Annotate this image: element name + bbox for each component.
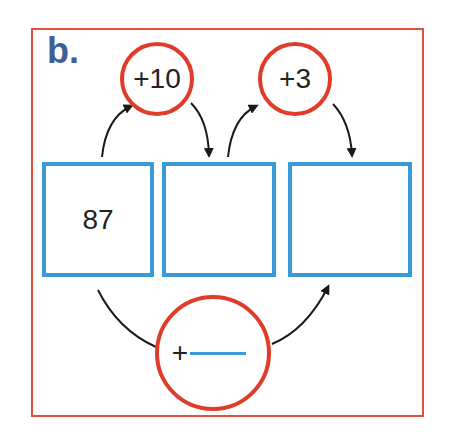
operator-circle-bottom: +: [155, 295, 271, 411]
number-box-2[interactable]: [162, 162, 276, 277]
number-box-3[interactable]: [288, 162, 412, 277]
operator-circle-plus3: +3: [258, 42, 332, 116]
arrow-plus3-to-box3: [333, 104, 352, 155]
arrow-box2-to-plus3: [228, 106, 256, 157]
arrow-plus10-to-box2: [191, 103, 209, 155]
operator-prefix: +: [172, 337, 188, 369]
arrow-box1-to-bottom-circle: [98, 290, 156, 347]
arrow-box1-to-plus10: [102, 106, 131, 157]
box-value: 87: [82, 204, 113, 236]
operator-circle-plus10: +10: [120, 42, 194, 116]
number-box-1: 87: [42, 162, 154, 277]
answer-blank[interactable]: [190, 352, 246, 355]
operator-text: +10: [133, 63, 181, 95]
arrow-bottom-circle-to-box3: [272, 287, 328, 344]
operator-text: +3: [279, 63, 311, 95]
